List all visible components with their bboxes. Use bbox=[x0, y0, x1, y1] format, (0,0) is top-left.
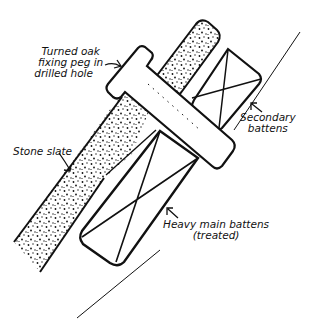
peg-label-line3: drilled hole bbox=[24, 68, 103, 79]
stone-slate-label: Stone slate bbox=[13, 146, 72, 157]
peg-label: Turned oak fixing peg in drilled hole bbox=[38, 46, 103, 79]
secondary-label: Secondary battens bbox=[240, 112, 296, 134]
secondary-label-line2: battens bbox=[240, 123, 296, 134]
main-label-line2: (treated) bbox=[163, 230, 269, 241]
main-label: Heavy main battens (treated) bbox=[163, 219, 269, 241]
main-leader-arrow bbox=[167, 208, 178, 218]
peg-leader-arrow bbox=[105, 60, 121, 68]
